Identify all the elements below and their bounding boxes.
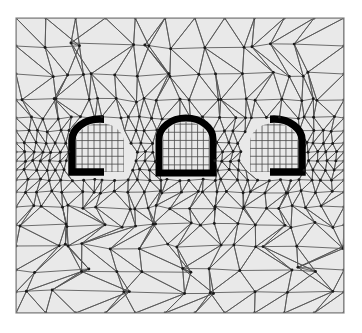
mesh-canvas [0, 0, 362, 333]
mesh-figure [0, 0, 362, 333]
